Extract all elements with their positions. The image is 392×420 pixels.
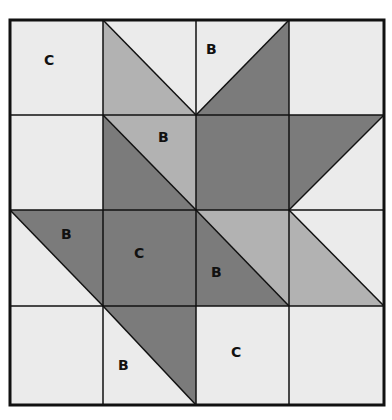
square-r2c1 <box>103 210 196 306</box>
square-r0c3 <box>289 20 384 115</box>
label-c-r3c2: C <box>231 344 241 360</box>
square-r1c2 <box>196 115 289 210</box>
label-c-r0c0: C <box>44 52 54 68</box>
label-c-r2c1: C <box>134 245 144 261</box>
label-b-r1c1: B <box>158 129 169 145</box>
square-r0c0 <box>10 20 103 115</box>
square-r1c0 <box>10 115 103 210</box>
square-r3c3 <box>289 306 384 405</box>
label-b-r2c0: B <box>61 226 72 242</box>
label-b-r2c2: B <box>211 264 222 280</box>
label-b-r3c1: B <box>118 357 129 373</box>
label-b-r0c2: B <box>206 41 217 57</box>
quilt-block-diagram: C B B B C B B C <box>0 0 392 420</box>
square-r3c2 <box>196 306 289 405</box>
square-r3c0 <box>10 306 103 405</box>
